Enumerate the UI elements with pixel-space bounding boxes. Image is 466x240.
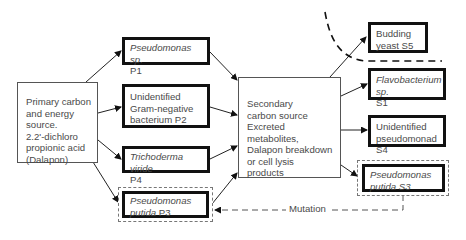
organism-line: putida	[130, 207, 156, 218]
organism-line: Unidentified	[376, 121, 438, 133]
organism-line: Gram-negative	[130, 103, 202, 115]
organism-line: Unidentified	[130, 91, 202, 103]
primary-line: (Dalapon)	[26, 154, 97, 166]
arrow-p4-secondary	[210, 146, 237, 159]
organism-code: P3	[159, 207, 171, 218]
primary-line: and energy	[26, 108, 97, 120]
organism-code: P4	[130, 174, 202, 186]
secondary-line: Secondary	[247, 98, 340, 110]
organism-name: Pseudomonas sp.	[130, 42, 202, 65]
arrow-primary-p1	[86, 51, 121, 82]
primary-line: propionic acid	[26, 142, 97, 154]
organism-line: Budding	[376, 28, 420, 40]
arrow-primary-p3	[93, 162, 118, 202]
organism-line: yeast S5	[376, 40, 420, 52]
organism-name: Trichoderma viride	[130, 151, 202, 174]
arrow-secondary-s3	[341, 165, 357, 176]
organism-line: Pseudomonas	[130, 195, 201, 207]
arrow-p2-secondary	[210, 107, 237, 115]
organism-name: Flavobacterium sp.	[376, 74, 438, 97]
organism-code: P1	[130, 65, 202, 77]
primary-line: 2.2'-dichloro	[26, 131, 97, 143]
arrow-secondary-s1	[341, 84, 367, 96]
organism-line: putida S3	[370, 181, 437, 193]
organism-box-s4: Unidentified pseudomonad S4	[368, 115, 446, 147]
organism-line: pseudomonad S4	[376, 133, 438, 156]
secondary-line: carbon source	[247, 110, 340, 122]
secondary-line: products	[247, 167, 340, 179]
primary-line: Primary carbon	[26, 96, 97, 108]
arrow-p3-secondary	[212, 173, 237, 204]
organism-line: bacterium P2	[130, 114, 202, 126]
primary-line: source.	[26, 119, 97, 131]
primary-carbon-source-box: Primary carbon and energy source. 2.2'-d…	[17, 82, 98, 163]
secondary-line: metabolites,	[247, 133, 340, 145]
organism-box-p4: Trichoderma viride P4	[122, 146, 210, 173]
secondary-line: Excreted	[247, 121, 340, 133]
secondary-line: or cell lysis	[247, 156, 340, 168]
arrow-p1-secondary	[210, 52, 237, 80]
organism-box-p2: Unidentified Gram-negative bacterium P2	[122, 84, 210, 128]
organism-box-p3: Pseudomonas putida P3	[122, 191, 209, 218]
secondary-line: Dalapon breakdown	[247, 144, 340, 156]
arrow-primary-p4	[98, 140, 121, 159]
organism-box-p1: Pseudomonas sp. P1	[122, 37, 210, 65]
mutation-label: Mutation	[286, 203, 329, 214]
secondary-carbon-source-box: Secondary carbon source Excreted metabol…	[238, 77, 341, 178]
arrow-primary-p2	[98, 107, 121, 113]
arrow-secondary-s5	[330, 37, 366, 77]
organism-box-s3: Pseudomonas putida S3	[362, 164, 445, 192]
organism-box-s1: Flavobacterium sp. S1	[368, 68, 446, 100]
organism-box-s5: Budding yeast S5	[368, 22, 428, 53]
organism-line: Pseudomonas	[370, 169, 437, 181]
organism-code: S1	[376, 97, 438, 109]
